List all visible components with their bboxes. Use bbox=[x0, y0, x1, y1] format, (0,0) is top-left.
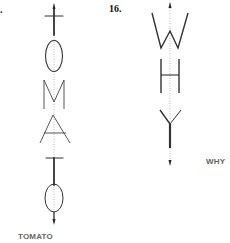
why-vertical-lettering bbox=[0, 0, 230, 243]
letter-y bbox=[160, 110, 181, 148]
arrow-down-icon bbox=[169, 160, 172, 166]
arrow-up-icon bbox=[169, 2, 172, 8]
caption-why: WHY bbox=[206, 157, 225, 166]
